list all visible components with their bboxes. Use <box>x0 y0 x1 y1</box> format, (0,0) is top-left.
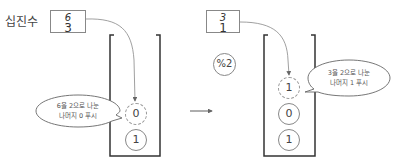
decimal-label: 십진수 <box>5 15 38 29</box>
stack-diagram: 십진수 6 3 0 1 6을 2으로 나눈 나머지 0 푸시 3 1 %2 1 … <box>0 0 408 168</box>
stack-item: 1 <box>278 129 300 151</box>
bubble-text-left: 6을 2으로 나눈 나머지 0 푸시 <box>40 101 116 121</box>
decimal-box-step2: 3 1 <box>206 10 240 33</box>
current-value: 1 <box>207 22 239 34</box>
stack-item-new: 1 <box>278 77 300 99</box>
decimal-box-step1: 6 3 <box>50 10 86 33</box>
bubble-text-right: 3을 2으로 나눈 나머지 1 푸시 <box>312 68 386 88</box>
stack-item-new: 0 <box>125 103 147 125</box>
stack-item: 1 <box>125 129 147 151</box>
modulo-operator: %2 <box>213 53 236 76</box>
stack-item: 0 <box>278 103 300 125</box>
current-value: 3 <box>51 22 85 34</box>
